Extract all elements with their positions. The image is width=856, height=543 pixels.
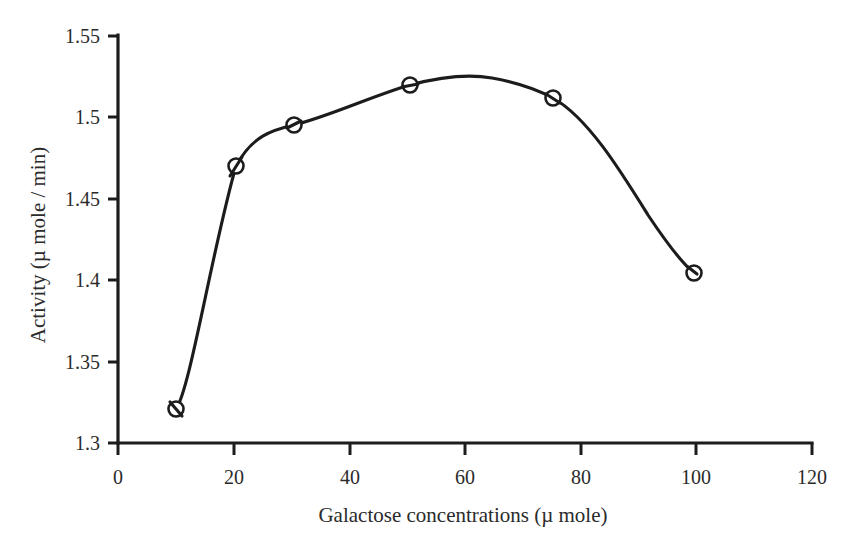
y-tick-label-1.5: 1.5 [75, 106, 100, 128]
y-axis-title: Activity (µ mole / min) [26, 147, 50, 343]
x-tick-label-20: 20 [224, 466, 244, 488]
y-tick-label-1.45: 1.45 [65, 188, 100, 210]
chart-figure: 1.55 1.5 1.45 1.4 1.35 1.3 0 20 40 60 80… [0, 0, 856, 543]
x-tick-label-0: 0 [113, 466, 123, 488]
x-tick-label-100: 100 [681, 466, 711, 488]
x-tick-label-120: 120 [797, 466, 827, 488]
x-tick-label-60: 60 [455, 466, 475, 488]
x-tick-label-80: 80 [571, 466, 591, 488]
y-tick-label-1.35: 1.35 [65, 351, 100, 373]
x-axis-title: Galactose concentrations (µ mole) [318, 503, 607, 527]
activity-vs-galactose-line-chart: 1.55 1.5 1.45 1.4 1.35 1.3 0 20 40 60 80… [0, 0, 856, 543]
y-tick-label-1.3: 1.3 [75, 432, 100, 454]
y-tick-label-1.4: 1.4 [75, 269, 100, 291]
x-tick-label-40: 40 [340, 466, 360, 488]
y-tick-label-1.55: 1.55 [65, 25, 100, 47]
